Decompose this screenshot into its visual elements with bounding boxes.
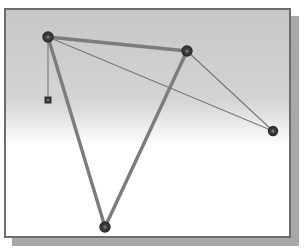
screenshot-root bbox=[0, 0, 306, 251]
graph-node-highlight bbox=[103, 225, 106, 228]
figure-canvas bbox=[6, 10, 289, 236]
graph-node-highlight bbox=[46, 35, 49, 38]
graph-node-highlight bbox=[271, 129, 274, 132]
graph-node[interactable] bbox=[43, 32, 53, 42]
graph-edge bbox=[48, 37, 187, 51]
graph-edge bbox=[48, 37, 273, 131]
graph-node[interactable] bbox=[45, 97, 51, 103]
graph-edges-layer bbox=[48, 37, 273, 227]
graph-edge bbox=[48, 37, 105, 227]
figure-frame bbox=[4, 8, 291, 238]
graph-node-highlight bbox=[47, 99, 49, 101]
graph-node[interactable] bbox=[100, 222, 110, 232]
graph-node-highlight bbox=[185, 49, 188, 52]
graph-edge bbox=[187, 51, 273, 131]
graph-node[interactable] bbox=[182, 46, 192, 56]
graph-node[interactable] bbox=[269, 127, 278, 136]
graph-plot bbox=[6, 10, 289, 236]
